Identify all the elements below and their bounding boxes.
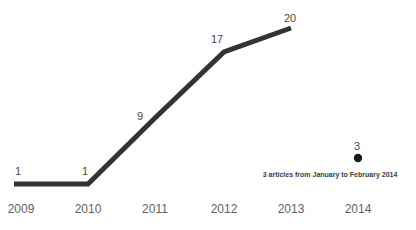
x-axis-tick-labels: 2009 2010 2011 2012 2013 2014 <box>0 0 416 230</box>
x-tick-2009: 2009 <box>8 203 35 215</box>
x-tick-2014: 2014 <box>345 203 372 215</box>
x-tick-2012: 2012 <box>211 203 238 215</box>
x-tick-2010: 2010 <box>75 203 102 215</box>
x-tick-2011: 2011 <box>142 203 168 215</box>
x-tick-2013: 2013 <box>278 203 305 215</box>
line-chart: 1 1 9 17 20 3 3 articles from January to… <box>0 0 416 230</box>
